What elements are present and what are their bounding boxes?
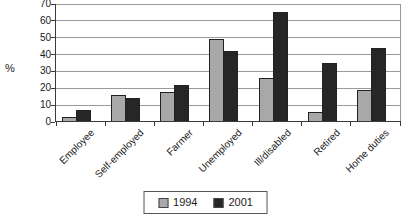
gridline-60 [56,20,400,21]
legend-swatch-2001 [214,198,224,208]
x-axis-tick-mark [154,122,155,126]
x-axis-tick-mark [203,122,204,126]
x-axis-category-label: Retired [311,127,342,158]
x-axis-category-label: Unemployed [196,127,243,174]
gridline-70 [56,4,400,5]
x-axis-tick-mark [350,122,351,126]
x-axis-tick-mark [252,122,253,126]
bar-1994-home-duties [357,90,372,122]
x-axis-category-label: Self-employed [93,127,146,180]
y-axis-tick-label: 20 [40,82,51,94]
y-axis-line [55,4,56,122]
x-axis-category-label: Home duties [344,127,391,174]
legend: 1994 2001 [143,191,268,214]
legend-item-1994: 1994 [158,196,197,209]
bar-1994-ill-disabled [259,78,274,122]
x-axis-tick-mark [400,122,401,126]
bar-2001-unemployed [223,51,238,122]
bar-2001-retired [322,63,337,122]
legend-label-2001: 2001 [229,196,253,209]
x-axis-tick-mark [56,122,57,126]
bar-chart: % 1994 2001 010203040506070EmployeeSelf-… [0,0,411,219]
bar-1994-self-employed [111,95,126,122]
y-axis-tick-label: 0 [45,116,51,128]
x-axis-category-label: Ill/disabled [252,127,293,168]
y-axis-tick-label: 50 [40,32,51,44]
x-axis-category-label: Employee [57,127,96,166]
y-axis-tick-label: 30 [40,65,51,77]
y-axis-tick-label: 10 [40,99,51,111]
plot-right-border [400,4,401,122]
bar-1994-farmer [160,92,175,122]
legend-label-1994: 1994 [173,196,197,209]
y-axis-tick-label: 60 [40,15,51,27]
y-axis-tick-label: 40 [40,49,51,61]
bar-2001-home-duties [371,48,386,122]
y-axis-label: % [5,62,15,74]
bar-2001-farmer [174,85,189,122]
x-axis-tick-mark [105,122,106,126]
x-axis-tick-mark [301,122,302,126]
x-axis-category-label: Farmer [164,127,195,158]
x-axis-line [55,121,401,122]
bar-2001-self-employed [125,98,140,122]
legend-item-2001: 2001 [214,196,253,209]
y-axis-tick-label: 70 [40,0,51,10]
legend-swatch-1994 [158,198,168,208]
gridline-50 [56,37,400,38]
bar-1994-unemployed [209,39,224,122]
bar-2001-ill-disabled [273,12,288,122]
